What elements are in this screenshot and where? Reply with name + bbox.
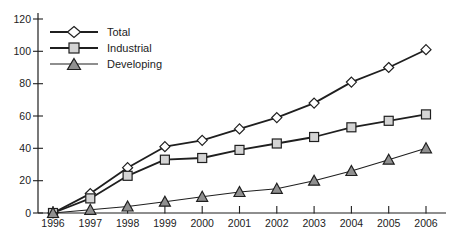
y-tick-label: 0 (25, 207, 31, 219)
x-tick-label: 2004 (340, 217, 364, 229)
developing-marker (421, 143, 432, 153)
total-marker (421, 45, 431, 55)
legend-label-developing: Developing (107, 57, 162, 71)
industrial-marker (86, 194, 95, 203)
industrial-marker (422, 110, 431, 119)
x-tick-label: 1996 (41, 217, 65, 229)
x-tick-label: 2000 (191, 217, 215, 229)
square-marker-icon (50, 41, 98, 55)
x-tick-label: 1997 (79, 217, 103, 229)
industrial-marker (235, 145, 244, 154)
chart-legend: Total Industrial Developing (50, 25, 162, 71)
legend-item-developing: Developing (50, 57, 162, 71)
legend-item-total: Total (50, 25, 162, 39)
total-marker (346, 77, 356, 87)
total-marker (309, 98, 319, 108)
industrial-marker (198, 154, 207, 163)
triangle-marker-icon (50, 57, 98, 71)
legend-item-industrial: Industrial (50, 41, 162, 55)
x-tick-label: 1999 (153, 217, 177, 229)
x-tick-label: 1998 (116, 217, 140, 229)
total-marker (160, 142, 170, 152)
developing-marker (383, 154, 394, 164)
developing-marker (346, 166, 357, 176)
y-tick-label: 60 (19, 110, 31, 122)
x-tick-label: 2006 (414, 217, 438, 229)
legend-label-total: Total (107, 25, 130, 39)
x-tick-label: 2002 (265, 217, 289, 229)
x-tick-label: 2001 (228, 217, 252, 229)
industrial-marker (347, 123, 356, 132)
y-tick-label: 20 (19, 174, 31, 186)
legend-label-industrial: Industrial (107, 41, 152, 55)
total-marker (235, 124, 245, 134)
diamond-marker-icon (50, 25, 98, 39)
industrial-marker (384, 116, 393, 125)
x-tick-label: 2005 (377, 217, 401, 229)
industrial-marker (123, 171, 132, 180)
line-chart-figure: 0204060801001201996199719981999200020012… (0, 0, 454, 245)
total-marker (272, 113, 282, 123)
y-tick-label: 40 (19, 142, 31, 154)
total-marker (197, 135, 207, 145)
industrial-marker (160, 155, 169, 164)
y-tick-label: 80 (19, 77, 31, 89)
y-tick-label: 100 (13, 45, 31, 57)
y-tick-label: 120 (13, 13, 31, 25)
industrial-marker (272, 139, 281, 148)
industrial-marker (310, 133, 319, 142)
x-tick-label: 2003 (302, 217, 326, 229)
total-marker (384, 63, 394, 73)
